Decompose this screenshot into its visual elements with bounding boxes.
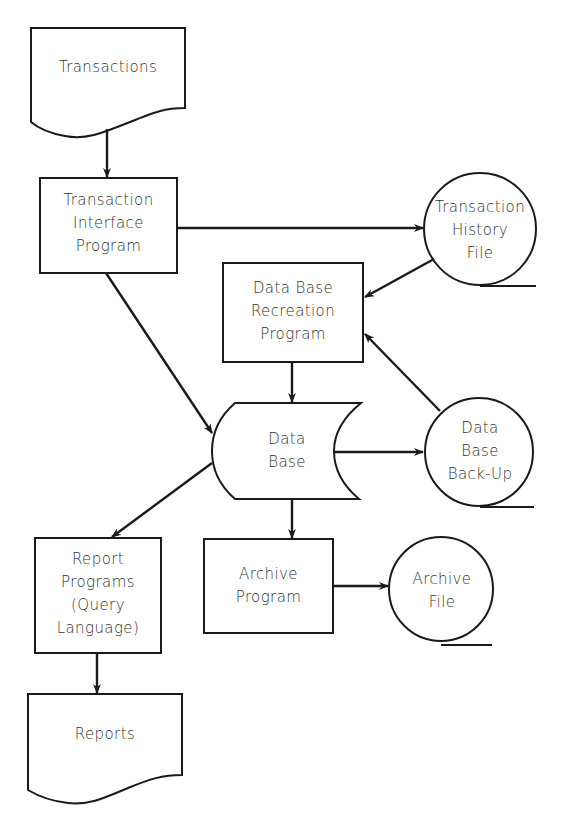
data-base-recreation-program-label: Data Base Recreation Program (223, 277, 363, 346)
arrow-backup-to-recreation (365, 334, 440, 411)
data-base-back-up-label: Data Base Back-Up (425, 417, 535, 486)
reports-label: Reports (28, 723, 182, 746)
archive-program-label: Archive Program (204, 563, 333, 609)
reports-document-shape (28, 694, 182, 803)
data-base-label: Data Base (212, 428, 362, 474)
transaction-interface-program-label: Transaction Interface Program (40, 189, 177, 258)
transactions-document-shape (31, 28, 185, 137)
report-programs-label: Report Programs (Query Language) (35, 548, 161, 640)
arrow-database-to-reports-programs (112, 463, 212, 537)
arrow-tip-to-database (106, 273, 212, 433)
flowchart-canvas (0, 0, 565, 822)
archive-file-label: Archive File (391, 568, 493, 614)
transaction-history-file-label: Transaction History File (420, 196, 540, 265)
transactions-label: Transactions (31, 56, 185, 79)
